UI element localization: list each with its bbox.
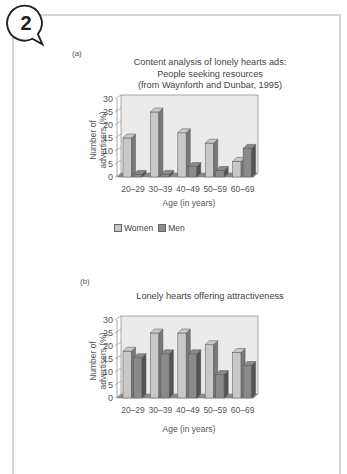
svg-text:30–39: 30–39 (149, 405, 173, 415)
svg-text:0: 0 (108, 393, 113, 403)
svg-text:40–49: 40–49 (176, 405, 200, 415)
bar-men-0 (134, 354, 147, 398)
svg-text:5: 5 (108, 380, 113, 390)
chart-b-ylabel: Number of advertisers (%) (88, 321, 108, 401)
svg-text:20–29: 20–29 (121, 405, 145, 415)
chart-b-ylabel-line2: advertisers (%) (98, 321, 108, 401)
chart-b-xlabel: Age (in years) (119, 424, 259, 434)
bar-men-2 (188, 350, 201, 398)
chart-b-ylabel-line1: Number of (88, 321, 98, 401)
bar-men-4 (243, 362, 256, 399)
bar-men-1 (161, 350, 174, 398)
svg-text:60–69: 60–69 (231, 405, 255, 415)
svg-text:50–59: 50–59 (203, 405, 227, 415)
bar-men-3 (216, 371, 229, 398)
